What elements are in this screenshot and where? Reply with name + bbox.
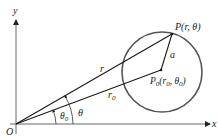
point-P bbox=[171, 33, 174, 36]
segment-a-label: a bbox=[170, 49, 175, 60]
point-P0 bbox=[160, 69, 163, 72]
y-axis-label: y bbox=[12, 5, 18, 16]
x-axis-label: x bbox=[211, 118, 217, 129]
segment-r0 bbox=[16, 70, 161, 124]
theta-label: θ bbox=[78, 107, 83, 118]
point-P-label: P(r, θ) bbox=[174, 21, 201, 33]
origin-label: O bbox=[6, 126, 13, 136]
theta0-arc bbox=[53, 110, 56, 124]
point-P0-label: P0(r0, θ0) bbox=[149, 76, 186, 88]
segment-r-label: r bbox=[100, 63, 104, 74]
circle bbox=[122, 32, 202, 112]
polar-diagram: y x O P(r, θ) P0(r0, θ0) r r0 a θ θ0 bbox=[0, 0, 218, 136]
theta0-label: θ0 bbox=[60, 111, 69, 123]
segment-r0-label: r0 bbox=[108, 89, 116, 102]
